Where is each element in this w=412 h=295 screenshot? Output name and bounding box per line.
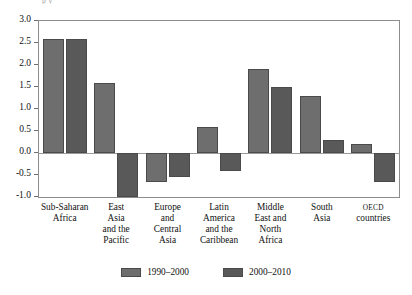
- x-axis-category-label-line: OECD: [342, 202, 405, 213]
- y-axis-tick-label: 3.0: [19, 15, 31, 25]
- legend-label: 1990–2000: [147, 268, 189, 277]
- y-axis-tick-label: -0.5: [16, 169, 31, 179]
- y-axis-tick-mark: [34, 20, 38, 21]
- x-axis-category-label-line: Africa: [239, 235, 302, 246]
- bar: [300, 96, 321, 153]
- y-axis-tick-label: 1.5: [19, 81, 31, 91]
- bar: [169, 153, 190, 177]
- bar: [351, 144, 372, 153]
- y-axis-tick-mark: [34, 64, 38, 65]
- y-axis-tick-label: -1.0: [16, 191, 31, 201]
- bar-group: [39, 21, 90, 197]
- chart-legend: 1990–20002000–2010: [0, 268, 412, 277]
- y-axis-tick-label: 2.5: [19, 37, 31, 47]
- y-axis-tick-mark: [34, 130, 38, 131]
- bar: [146, 153, 167, 182]
- x-axis-category-labels: Sub-SaharanAfricaEastAsiaand thePacificE…: [39, 202, 399, 258]
- y-axis-tick-label: 2.0: [19, 59, 31, 69]
- y-axis-tick-mark: [34, 196, 38, 197]
- bar-group: [142, 21, 193, 197]
- y-axis: 3.02.52.01.51.00.50.0-0.5-1.0: [0, 20, 38, 198]
- bar: [220, 153, 241, 171]
- bar-group: [90, 21, 141, 197]
- bar: [66, 39, 87, 153]
- y-axis-tick-mark: [34, 174, 38, 175]
- oecd-smallcaps-text: OECD: [363, 203, 384, 212]
- bar: [117, 153, 138, 197]
- y-axis-tick-label: 0.5: [19, 125, 31, 135]
- x-axis-category-label-line: countries: [342, 213, 405, 224]
- bar: [271, 87, 292, 153]
- y-axis-tick-mark: [34, 108, 38, 109]
- legend-label: 2000–2010: [249, 268, 291, 277]
- y-axis-tick-label: 1.0: [19, 103, 31, 113]
- x-axis-category-label-line: North: [239, 224, 302, 235]
- bar-group: [348, 21, 399, 197]
- legend-color-swatch: [121, 268, 141, 277]
- bar-group: [296, 21, 347, 197]
- legend-color-swatch: [223, 268, 243, 277]
- y-axis-tick-mark: [34, 86, 38, 87]
- chart-figure: p y 3.02.52.01.51.00.50.0-0.5-1.0 Sub-Sa…: [0, 0, 412, 295]
- x-axis-category-label: OECDcountries: [342, 202, 405, 224]
- bar: [323, 140, 344, 153]
- y-axis-tick-label: 0.0: [19, 147, 31, 157]
- bar: [94, 83, 115, 153]
- bar-group: [193, 21, 244, 197]
- legend-item[interactable]: 1990–2000: [121, 268, 189, 277]
- bar: [197, 127, 218, 153]
- bars-layer: [39, 21, 399, 197]
- legend-item[interactable]: 2000–2010: [223, 268, 291, 277]
- bar-group: [245, 21, 296, 197]
- bar: [374, 153, 395, 182]
- bar: [248, 69, 269, 153]
- y-axis-tick-mark: [34, 42, 38, 43]
- clipped-caption-sliver: p y: [42, 0, 53, 4]
- bar: [43, 39, 64, 153]
